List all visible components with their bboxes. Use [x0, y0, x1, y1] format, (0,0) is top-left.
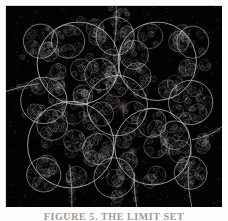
figure-page: FIGURE 5. THE LIMIT SET: [0, 0, 228, 221]
figure-caption: FIGURE 5. THE LIMIT SET: [0, 211, 228, 221]
fractal-image-plate: [6, 6, 222, 207]
fractal-canvas: [6, 6, 222, 207]
